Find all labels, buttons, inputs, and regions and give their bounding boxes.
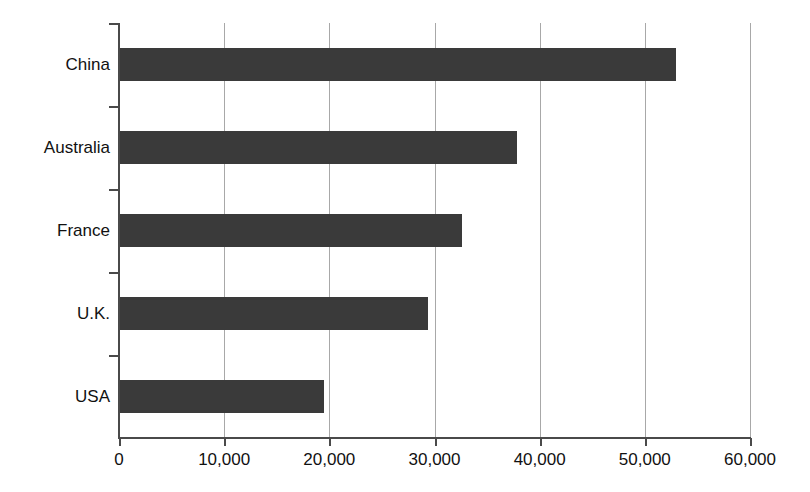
category-label-france: France: [0, 221, 110, 241]
y-axis-tick: [109, 272, 119, 274]
y-axis-tick: [109, 189, 119, 191]
bars-layer: [119, 23, 750, 438]
x-axis-tick-20000: [329, 438, 331, 446]
x-axis-tick-60000: [750, 438, 752, 446]
gridline-60000: [750, 23, 751, 438]
bar-china: [119, 48, 676, 81]
y-axis-line: [118, 23, 120, 439]
bar-u-k: [119, 297, 428, 330]
x-axis-label-40000: 40,000: [514, 450, 566, 470]
x-axis-label-50000: 50,000: [619, 450, 671, 470]
bar-france: [119, 214, 462, 247]
category-label-u-k: U.K.: [0, 304, 110, 324]
x-axis-tick-0: [119, 438, 121, 446]
y-axis-tick-top: [109, 23, 119, 25]
bar-usa: [119, 380, 324, 413]
x-axis-tick-50000: [645, 438, 647, 446]
x-axis-tick-40000: [540, 438, 542, 446]
x-axis-label-0: 0: [114, 450, 123, 470]
x-axis-label-20000: 20,000: [303, 450, 355, 470]
y-axis-tick: [109, 106, 119, 108]
x-axis-tick-30000: [435, 438, 437, 446]
bar-chart: ChinaAustraliaFranceU.K.USA 010,00020,00…: [0, 0, 810, 492]
x-axis-label-10000: 10,000: [198, 450, 250, 470]
category-label-china: China: [0, 55, 110, 75]
x-axis-label-30000: 30,000: [409, 450, 461, 470]
x-axis-tick-10000: [224, 438, 226, 446]
category-label-australia: Australia: [0, 138, 110, 158]
bar-australia: [119, 131, 517, 164]
x-axis-label-60000: 60,000: [724, 450, 776, 470]
y-axis-tick: [109, 355, 119, 357]
category-label-usa: USA: [0, 387, 110, 407]
